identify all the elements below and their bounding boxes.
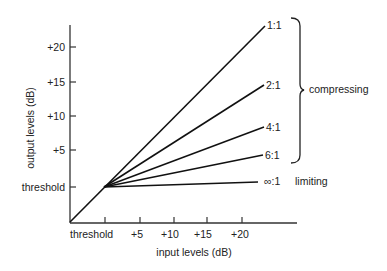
x-tick-label: +15 [194, 228, 212, 240]
ratio-label-4-1: 4:1 [266, 121, 281, 133]
ratio-label-inf-1: ∞:1 [264, 175, 280, 187]
x-tick-label: +10 [161, 228, 179, 240]
y-tick-label: +20 [47, 41, 65, 53]
ratio-label-2-1: 2:1 [266, 79, 281, 91]
transfer-curves [70, 26, 265, 222]
ratio-label-1-1: 1:1 [267, 19, 282, 31]
x-tick-label: +20 [231, 228, 249, 240]
x-axis-title: input levels (dB) [156, 246, 231, 258]
compressing-brace [291, 18, 304, 163]
line-1-1 [70, 26, 265, 222]
compression-ratio-diagram: +20 +15 +10 +5 threshold threshold +5 +1… [0, 0, 387, 271]
y-axis-title: output levels (dB) [24, 87, 36, 169]
diagram-svg: +20 +15 +10 +5 threshold threshold +5 +1… [0, 0, 387, 271]
y-tick-label: +10 [47, 110, 65, 122]
y-tick-label: +15 [47, 76, 65, 88]
compressing-label: compressing [309, 83, 369, 95]
limiting-label: limiting [295, 175, 328, 187]
x-tick-label: +5 [131, 228, 143, 240]
y-tick-label: threshold [22, 181, 65, 193]
ratio-label-6-1: 6:1 [265, 149, 280, 161]
y-ticks [70, 47, 76, 187]
x-ticks [105, 217, 242, 223]
x-tick-label: threshold [70, 228, 113, 240]
y-tick-label: +5 [53, 144, 65, 156]
